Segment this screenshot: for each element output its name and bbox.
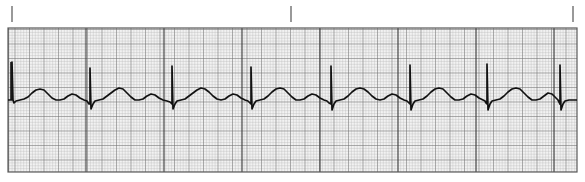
ecg-grid-paper (8, 28, 577, 172)
ecg-rhythm-strip (0, 0, 585, 182)
ecg-page (0, 0, 585, 182)
